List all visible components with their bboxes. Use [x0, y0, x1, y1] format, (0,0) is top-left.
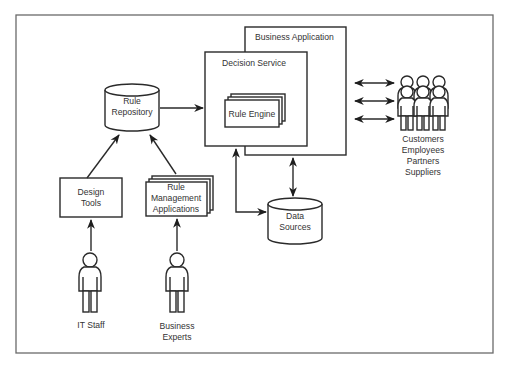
- rule-engine-stack: Rule Engine: [225, 94, 285, 127]
- data-sources-label-1: Data: [286, 211, 304, 221]
- rule-mgmt-label-2: Management: [151, 193, 202, 203]
- rule-repository-label-2: Repository: [111, 107, 153, 117]
- rule-mgmt-label-3: Applications: [153, 204, 199, 214]
- rule-engine-label: Rule Engine: [229, 109, 276, 119]
- rule-repository-label-1: Rule: [123, 96, 141, 106]
- design-tools-label-1: Design: [78, 187, 105, 197]
- it-staff-label: IT Staff: [77, 320, 105, 330]
- business-experts-label-2: Experts: [162, 332, 191, 342]
- rule-management-applications-stack: Rule Management Applications: [146, 176, 213, 216]
- external-users-label-2: Employees: [402, 145, 445, 155]
- rule-repository-cylinder: Rule Repository: [105, 84, 159, 131]
- rule-mgmt-label-1: Rule: [167, 182, 185, 192]
- business-application-label: Business Application: [255, 32, 334, 42]
- architecture-diagram: Business Application Decision Service Ru…: [0, 0, 510, 369]
- decision-service-label: Decision Service: [222, 58, 286, 68]
- data-sources-cylinder: Data Sources: [268, 198, 322, 244]
- design-tools-box: Design Tools: [60, 178, 122, 217]
- external-users-label-1: Customers: [402, 134, 444, 144]
- data-sources-label-2: Sources: [279, 222, 311, 232]
- design-tools-label-2: Tools: [81, 198, 101, 208]
- business-experts-label-1: Business: [160, 321, 195, 331]
- external-users-label-4: Suppliers: [405, 167, 441, 177]
- external-users-label-3: Partners: [407, 156, 439, 166]
